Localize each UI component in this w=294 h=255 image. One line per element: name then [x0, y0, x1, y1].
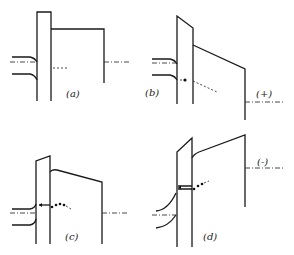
valence-band-c [12, 219, 36, 225]
trapped-electrons-c [51, 203, 66, 209]
bias-label-b: (+) [256, 88, 272, 99]
panel-label-b: (b) [145, 87, 159, 98]
panel-d: (-) (d) [152, 135, 284, 247]
nitride-layer-d [192, 135, 245, 207]
trap-level-d [204, 181, 209, 183]
panel-b: (b) (+) [145, 16, 283, 120]
panel-a: (a) [10, 12, 130, 101]
panel-label-d: (d) [203, 231, 217, 242]
panel-label-c: (c) [65, 231, 79, 242]
panel-c: (c) [10, 156, 128, 244]
oxide-barrier-a [37, 12, 51, 101]
bias-label-d: (-) [257, 156, 268, 167]
panel-label-a: (a) [66, 88, 80, 99]
oxide-barrier-d [177, 138, 192, 247]
oxide-barrier-b [177, 16, 193, 104]
conduction-band-a [12, 57, 37, 62]
valence-band-b [152, 75, 177, 80]
band-diagram-figure: (a) (b) (+) (c) [0, 0, 294, 255]
nitride-layer-a [51, 29, 104, 83]
arrowhead-c [39, 203, 42, 207]
conduction-band-c [12, 204, 36, 209]
trapped-electrons-d [193, 183, 204, 191]
trap-level-c [66, 206, 71, 209]
trap-level-b [193, 81, 217, 92]
conduction-band-d [156, 193, 176, 211]
valence-band-d [156, 215, 176, 228]
nitride-layer-b [193, 45, 245, 120]
oxide-barrier-c [36, 156, 50, 244]
electron-b [183, 78, 186, 81]
valence-band-a [12, 74, 37, 80]
